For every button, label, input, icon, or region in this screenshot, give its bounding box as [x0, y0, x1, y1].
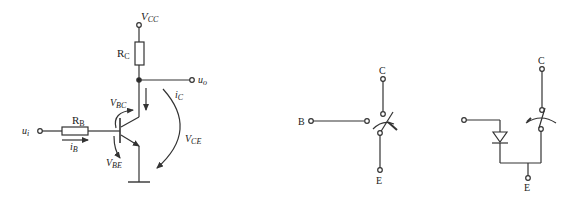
circuit-diagram: VCC RC uo ui RB iB iC VBC VBE VCE C B E	[0, 0, 576, 202]
gate-terminal	[462, 118, 467, 123]
collector-terminal	[381, 77, 386, 82]
vcc-terminal	[137, 23, 142, 28]
ui-label: ui	[22, 125, 29, 138]
vcc-label: VCC	[141, 10, 159, 24]
base-label: B	[298, 116, 305, 127]
switch-contact-bottom	[539, 127, 544, 132]
base-contact	[365, 119, 370, 124]
emitter-terminal	[526, 176, 531, 181]
uo-label: uo	[198, 74, 207, 87]
vce-arrow	[157, 89, 180, 168]
uo-terminal	[190, 78, 195, 83]
collector-terminal	[540, 67, 545, 72]
switch-contact-bottom	[378, 131, 383, 136]
vbe-arrow	[114, 136, 120, 158]
ui-terminal	[38, 129, 43, 134]
switch-labels: C B E	[298, 65, 386, 186]
vbc-label: VBC	[110, 97, 127, 110]
switch-contact-top	[381, 112, 386, 117]
vbe-label: VBE	[106, 157, 122, 170]
diode-symbol	[493, 132, 507, 142]
rb-resistor	[62, 127, 88, 135]
ib-label: iB	[70, 141, 78, 154]
emitter-label: E	[524, 182, 530, 193]
ic-label: iC	[175, 89, 184, 102]
rc-resistor	[135, 42, 144, 65]
igbt-equivalent	[462, 67, 556, 181]
emitter-label: E	[376, 175, 382, 186]
collector-label: C	[538, 55, 545, 66]
base-terminal	[309, 119, 314, 124]
switch-equivalent	[309, 77, 397, 173]
collector-label: C	[379, 65, 386, 76]
emitter-terminal	[378, 168, 383, 173]
vce-label: VCE	[185, 133, 201, 146]
rc-label: RC	[117, 47, 130, 61]
rb-label: RB	[72, 114, 85, 128]
